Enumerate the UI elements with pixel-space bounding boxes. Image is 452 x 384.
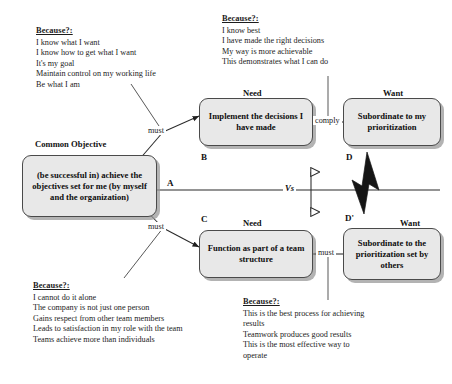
assumptions-bottom-left: Because?: I cannot do it alone The compa… (33, 281, 183, 345)
node-letter-dprime: D' (345, 213, 354, 223)
assumption-line: This is the best process for achieving r… (243, 309, 367, 330)
assumption-line: I know how to get what I want (36, 48, 156, 58)
assumption-line: I know best (222, 26, 328, 36)
node-letter-a: A (167, 178, 174, 188)
assumptions-top-left: Because?: I know what I want I know how … (36, 26, 156, 90)
because-heading: Because?: (36, 26, 156, 36)
node-letter-d: D (346, 152, 353, 162)
assumption-line: It's my goal (36, 59, 156, 69)
assumptions-top-right: Because?: I know best I have made the ri… (222, 14, 328, 68)
because-heading: Because?: (243, 297, 367, 307)
assumption-line: Teamwork produces good results (243, 330, 367, 340)
assumption-line: Gains respect from other team members (33, 314, 183, 324)
evaporating-cloud-diagram: Because?: I know what I want I know how … (0, 0, 452, 384)
box-d-want[interactable]: Subordinate to my prioritization (343, 98, 441, 146)
assumption-line: I know what I want (36, 38, 156, 48)
assumptions-bottom-right: Because?: This is the best process for a… (243, 297, 367, 361)
because-heading: Because?: (33, 281, 183, 291)
edge-label-comply-bd: comply (313, 116, 342, 125)
edge-label-must-ac: must (146, 222, 166, 231)
edge-label-must-cdprime: must (316, 248, 336, 257)
assumption-line: This is the most effective way to operat… (243, 340, 367, 361)
box-d-text: Subordinate to my prioritization (349, 111, 435, 133)
assumption-line: The company is not just one person (33, 303, 183, 313)
need-label-bottom: Need (243, 218, 262, 228)
vs-label: Vs (283, 183, 296, 193)
box-b-need[interactable]: Implement the decisions I have made (199, 98, 313, 146)
box-c-need[interactable]: Function as part of a team structure (199, 230, 313, 278)
assumption-line: Maintain control on my working life (36, 69, 156, 79)
box-a-common-objective[interactable]: (be successful in) achieve the objective… (22, 155, 157, 217)
node-letter-c: C (201, 214, 208, 224)
assumption-line: My way is more achievable (222, 47, 328, 57)
edge-label-must-ab: must (146, 126, 166, 135)
box-dprime-text: Subordinate to the prioritization set by… (349, 238, 435, 271)
assumption-line: This demonstrates what I can do (222, 57, 328, 67)
conflict-lightning-bolt-icon (352, 152, 379, 214)
assumption-line: Be what I am (36, 80, 156, 90)
assumption-line: I cannot do it alone (33, 293, 183, 303)
box-dprime-want[interactable]: Subordinate to the prioritization set by… (343, 228, 441, 280)
assumption-line: Teams achieve more than individuals (33, 335, 183, 345)
node-letter-b: B (201, 152, 207, 162)
assumption-line: Leads to satisfaction in my role with th… (33, 324, 183, 334)
box-c-text: Function as part of a team structure (205, 243, 307, 265)
need-label-top: Need (243, 88, 262, 98)
because-heading: Because?: (222, 14, 328, 24)
want-label-bottom: Want (400, 218, 420, 228)
want-label-top: Want (383, 88, 403, 98)
box-a-text: (be successful in) achieve the objective… (28, 170, 151, 203)
common-objective-label: Common Objective (35, 139, 106, 149)
box-b-text: Implement the decisions I have made (205, 111, 307, 133)
connector-c-dprime (313, 254, 343, 300)
assumption-line: I have made the right decisions (222, 36, 328, 46)
